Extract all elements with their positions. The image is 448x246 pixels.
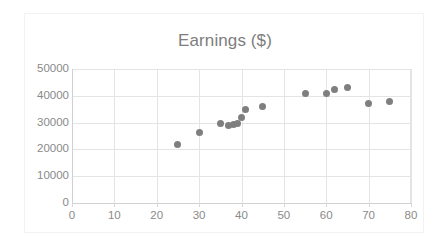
x-axis-tick-mark bbox=[369, 203, 370, 207]
y-axis-tick-label: 30000 bbox=[25, 117, 69, 129]
x-axis-tick-mark bbox=[72, 203, 73, 207]
chart-title: Earnings ($) bbox=[25, 31, 425, 51]
scatter-point[interactable] bbox=[242, 106, 249, 113]
scatter-point[interactable] bbox=[323, 90, 330, 97]
x-axis-tick-label: 70 bbox=[354, 210, 384, 222]
x-axis-tick-mark bbox=[114, 203, 115, 207]
y-axis-tick-label: 10000 bbox=[25, 170, 69, 182]
scatter-point[interactable] bbox=[174, 141, 181, 148]
x-axis-tick-label: 20 bbox=[142, 210, 172, 222]
gridline-vertical bbox=[369, 69, 370, 203]
scatter-point[interactable] bbox=[331, 86, 338, 93]
x-axis-tick-mark bbox=[326, 203, 327, 207]
gridline-vertical bbox=[242, 69, 243, 203]
scatter-point[interactable] bbox=[238, 114, 245, 121]
scatter-point[interactable] bbox=[386, 98, 393, 105]
scatter-point[interactable] bbox=[365, 100, 372, 107]
scatter-point[interactable] bbox=[234, 120, 241, 127]
y-axis-tick-label: 50000 bbox=[25, 63, 69, 75]
x-axis-tick-label: 0 bbox=[57, 210, 87, 222]
x-axis-tick-label: 30 bbox=[184, 210, 214, 222]
scatter-point[interactable] bbox=[259, 103, 266, 110]
x-axis-tick-mark bbox=[199, 203, 200, 207]
y-axis-tick-label: 20000 bbox=[25, 143, 69, 155]
scatter-point[interactable] bbox=[302, 90, 309, 97]
y-axis-tick-labels: 01000020000300004000050000 bbox=[25, 69, 69, 203]
scatter-point[interactable] bbox=[344, 84, 351, 91]
scatter-point[interactable] bbox=[196, 129, 203, 136]
scatter-point[interactable] bbox=[217, 120, 224, 127]
x-axis-tick-label: 40 bbox=[227, 210, 257, 222]
x-axis-tick-mark bbox=[284, 203, 285, 207]
x-axis-tick-label: 60 bbox=[311, 210, 341, 222]
x-axis-tick-mark bbox=[242, 203, 243, 207]
x-axis-tick-mark bbox=[411, 203, 412, 207]
gridline-vertical bbox=[284, 69, 285, 203]
gridline-vertical bbox=[114, 69, 115, 203]
gridline-vertical bbox=[411, 69, 412, 203]
gridline-vertical bbox=[157, 69, 158, 203]
x-axis-tick-mark bbox=[157, 203, 158, 207]
chart-card: Earnings ($) 01000020000300004000050000 … bbox=[24, 13, 424, 233]
x-axis-tick-label: 10 bbox=[99, 210, 129, 222]
plot-area bbox=[72, 69, 411, 203]
x-axis-tick-labels: 01020304050607080 bbox=[72, 210, 411, 226]
y-axis-tick-label: 0 bbox=[25, 197, 69, 209]
y-axis-tick-label: 40000 bbox=[25, 90, 69, 102]
x-axis-tick-label: 50 bbox=[269, 210, 299, 222]
y-axis-line bbox=[72, 69, 73, 204]
x-axis-tick-label: 80 bbox=[396, 210, 426, 222]
